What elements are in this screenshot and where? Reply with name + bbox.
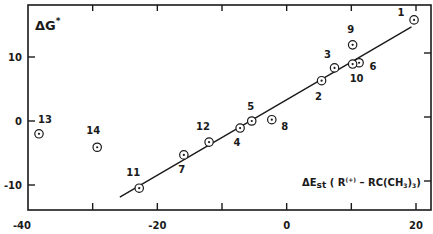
data-point-13: 13 (35, 114, 52, 138)
y-tick-label: 10 (8, 52, 22, 63)
data-point-9: 9 (347, 24, 357, 49)
point-label: 7 (178, 164, 185, 175)
point-label: 2 (315, 91, 322, 102)
point-label: 5 (247, 101, 254, 112)
data-point-2: 2 (315, 76, 326, 101)
point-label: 13 (38, 114, 52, 125)
x-tick-label: 20 (409, 220, 423, 231)
data-point-4: 4 (234, 124, 245, 148)
data-point-5: 5 (247, 101, 256, 125)
data-point-1: 1 (398, 7, 419, 24)
data-point-6: 6 (355, 59, 377, 72)
point-label: 11 (126, 167, 140, 178)
y-axis-label: ΔG* (35, 16, 61, 33)
x-axis-label: ΔEst ( R(+) – RC(CH3)3) (302, 176, 421, 190)
point-label: 8 (281, 121, 288, 132)
data-points: 1234567891011121314 (35, 7, 418, 193)
regression-line (120, 27, 412, 197)
data-point-8: 8 (268, 116, 289, 132)
data-point-12: 12 (196, 121, 213, 146)
point-label: 10 (350, 73, 364, 84)
y-tick-label: 0 (15, 116, 22, 127)
point-label: 4 (234, 137, 241, 148)
point-label: 9 (347, 24, 354, 35)
data-point-14: 14 (86, 125, 101, 151)
point-label: 1 (398, 7, 405, 18)
data-point-3: 3 (324, 49, 339, 72)
data-point-11: 11 (126, 167, 143, 192)
x-tick-label: -40 (13, 220, 31, 231)
x-tick-label: -20 (148, 220, 166, 231)
y-tick-label: -10 (4, 180, 22, 191)
point-label: 14 (86, 125, 100, 136)
point-label: 12 (196, 121, 210, 132)
point-label: 3 (324, 49, 331, 60)
scatter-chart: -40-20020-10010 1234567891011121314 ΔG* … (0, 0, 433, 234)
x-tick-label: 0 (283, 220, 290, 231)
point-label: 6 (370, 61, 377, 72)
